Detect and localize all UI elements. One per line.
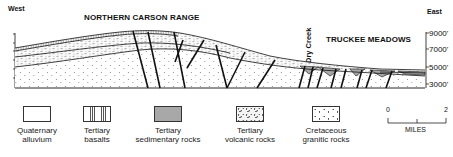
- legend-item-tertiary-volcanic: Tertiary volcanic rocks: [218, 106, 282, 144]
- legend-label-line2: sedimentary rocks: [128, 135, 208, 144]
- legend-label-line2: volcanic rocks: [218, 135, 282, 144]
- alluvium-swatch: [23, 106, 51, 122]
- legend-item-tertiary-basalts: Tertiary basalts: [72, 106, 122, 144]
- legend-item-cretaceous-granitic: Cretaceous granitic rocks: [294, 106, 358, 144]
- legend-label-line2: basalts: [72, 135, 122, 144]
- legend-label-line1: Cretaceous: [294, 126, 358, 135]
- legend-label-line1: Tertiary: [218, 126, 282, 135]
- legend-label-line2: granitic rocks: [294, 135, 358, 144]
- volcanic-swatch: [236, 106, 264, 122]
- legend-label-line1: Quaternary: [12, 126, 62, 135]
- legend-label-line1: Tertiary: [72, 126, 122, 135]
- legend-label-line2: alluvium: [12, 135, 62, 144]
- scale-start: 0: [386, 106, 390, 113]
- granitic-swatch: [312, 106, 340, 122]
- geologic-cross-section: [0, 0, 453, 100]
- scale-bar: 0 2 MILES: [378, 105, 448, 135]
- basalts-swatch: [83, 106, 111, 122]
- scale-end: 2: [444, 106, 448, 113]
- legend-item-quaternary-alluvium: Quaternary alluvium: [12, 106, 62, 144]
- scale-unit: MILES: [405, 126, 426, 133]
- legend-item-tertiary-sedimentary: Tertiary sedimentary rocks: [128, 106, 208, 144]
- legend-label-line1: Tertiary: [128, 126, 208, 135]
- sedimentary-swatch: [154, 106, 182, 122]
